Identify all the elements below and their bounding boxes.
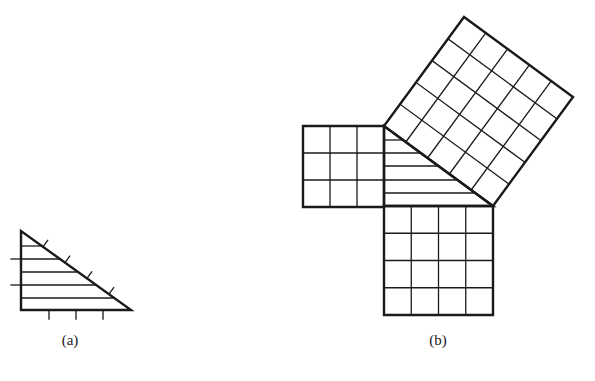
hyp-square-grid-line [432, 61, 541, 141]
hyp-square-grid-line [449, 65, 529, 174]
hyp-square-grid-line [416, 82, 525, 162]
hyp-square-grid-line [406, 33, 486, 142]
pythagoras-diagram [0, 0, 595, 381]
panel-a-triangle [11, 231, 131, 319]
hyp-square-grid-line [400, 104, 509, 184]
hyp-square-grid-line [428, 49, 508, 158]
panel-a-label: (a) [62, 332, 79, 349]
hyp-square-grid-line [471, 81, 551, 190]
small-square [303, 126, 384, 207]
panel-b-label: (b) [429, 332, 447, 349]
panel-b-squares [303, 17, 573, 315]
hyp-square-grid-line [448, 39, 557, 119]
hyp-square [384, 17, 573, 206]
tick-mark [43, 240, 48, 246]
